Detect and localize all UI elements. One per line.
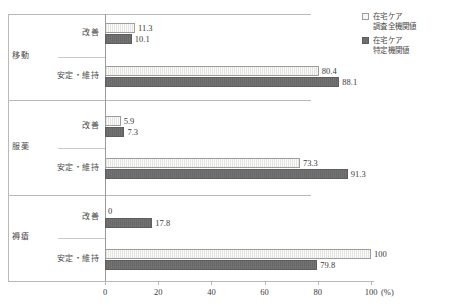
bar-value-specific-1-0: 7.3 [127, 127, 138, 137]
category-label-0: 移動 [12, 51, 58, 61]
category-label-2: 褥瘡 [12, 232, 58, 242]
legend-swatch-light-icon [362, 13, 369, 20]
bar-chart: 移動改善11.310.1安定・維持80.488.1服薬改善5.97.3安定・維持… [0, 0, 453, 305]
bar-value-all-0-1: 80.4 [322, 66, 337, 76]
bar-specific-2-0 [105, 218, 152, 228]
bar-value-all-1-1: 73.3 [303, 158, 318, 168]
bar-specific-1-0 [105, 127, 124, 137]
category-label-1: 服薬 [12, 142, 58, 152]
legend-item-specific: 在宅ケア 特定機関値 [362, 36, 417, 55]
category-leader-line-1 [58, 148, 105, 149]
bar-value-specific-2-1: 79.8 [320, 260, 335, 270]
bar-all-0-0 [105, 23, 135, 33]
x-tick-40 [211, 281, 212, 285]
legend-swatch-dark-icon [362, 37, 369, 44]
x-tick-20 [158, 281, 159, 285]
bar-value-all-1-0: 5.9 [124, 116, 135, 126]
category-leader-line-0 [58, 57, 105, 58]
bar-value-all-2-0: 0 [108, 206, 112, 216]
legend: 在宅ケア 調査全機関値 在宅ケア 特定機関値 [362, 12, 417, 60]
x-axis-line [8, 281, 374, 282]
legend-item-all: 在宅ケア 調査全機関値 [362, 12, 417, 31]
zero-baseline [105, 14, 106, 281]
row-label-0-0: 改善 [0, 28, 105, 38]
bar-all-1-1 [105, 158, 300, 168]
legend-label-all-line2: 調査全機関値 [373, 22, 417, 32]
bar-value-all-2-1: 100 [374, 249, 387, 259]
group-separator-2 [8, 195, 311, 196]
bar-specific-2-1 [105, 260, 317, 270]
x-tick-60 [265, 281, 266, 285]
bar-value-specific-0-1: 88.1 [342, 77, 357, 87]
row-label-2-0: 改善 [0, 212, 105, 222]
x-tick-80 [318, 281, 319, 285]
row-label-0-1: 安定・維持 [0, 71, 105, 81]
bar-all-1-0 [105, 116, 121, 126]
row-label-1-0: 改善 [0, 121, 105, 131]
x-tick-label-20: 20 [143, 287, 173, 297]
bar-value-specific-0-0: 10.1 [135, 34, 150, 44]
x-tick-label-60: 60 [250, 287, 280, 297]
x-tick-0 [105, 281, 106, 285]
bar-specific-0-1 [105, 77, 339, 87]
row-label-1-1: 安定・維持 [0, 163, 105, 173]
legend-label-all-line1: 在宅ケア [373, 12, 417, 22]
group-separator-1 [8, 100, 311, 101]
category-leader-line-2 [58, 238, 105, 239]
bar-specific-1-1 [105, 169, 348, 179]
plot-frame-top-border [8, 14, 311, 15]
row-label-2-1: 安定・維持 [0, 254, 105, 264]
bar-all-2-1 [105, 249, 371, 259]
plot-frame-left-border [8, 14, 9, 281]
x-axis-unit-label: (%) [381, 287, 394, 297]
bar-specific-0-0 [105, 34, 132, 44]
legend-label-specific-line1: 在宅ケア [373, 36, 417, 46]
bar-value-specific-2-0: 17.8 [155, 218, 170, 228]
x-tick-100 [371, 281, 372, 285]
bar-value-all-0-0: 11.3 [138, 23, 153, 33]
bar-all-0-1 [105, 66, 319, 76]
x-tick-label-40: 40 [196, 287, 226, 297]
x-tick-label-0: 0 [90, 287, 120, 297]
x-tick-label-80: 80 [303, 287, 333, 297]
legend-label-specific-line2: 特定機関値 [373, 46, 417, 56]
bar-value-specific-1-1: 91.3 [351, 169, 366, 179]
